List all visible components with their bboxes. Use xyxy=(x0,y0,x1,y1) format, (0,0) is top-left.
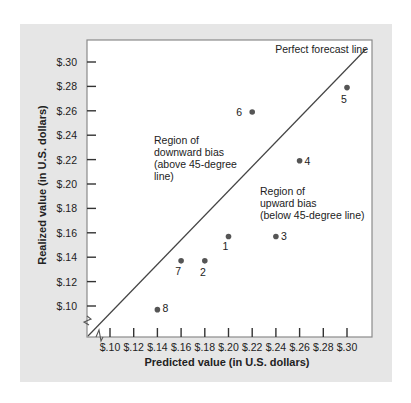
svg-text:upward bias: upward bias xyxy=(260,197,317,209)
x-tick-label: $.16 xyxy=(171,341,192,353)
y-tick-label: $.26 xyxy=(57,105,78,117)
y-tick-label: $.30 xyxy=(57,56,78,68)
svg-text:Region of: Region of xyxy=(154,134,199,146)
y-tick-label: $.18 xyxy=(57,202,78,214)
scatter-chart: $.10$.12$.14$.16$.18$.20$.22$.24$.26$.28… xyxy=(0,0,411,403)
y-tick-label: $.24 xyxy=(57,129,78,141)
point-label: 3 xyxy=(281,230,287,242)
svg-text:(below 45-degree line): (below 45-degree line) xyxy=(260,209,364,221)
svg-text:(above 45-degree: (above 45-degree xyxy=(154,158,237,170)
y-tick-label: $.28 xyxy=(57,80,78,92)
x-tick-label: $.22 xyxy=(242,341,263,353)
y-tick-label: $.14 xyxy=(57,251,78,263)
y-axis-title: Realized value (in U.S. dollars) xyxy=(36,105,48,265)
y-tick-label: $.10 xyxy=(57,300,78,312)
x-tick-label: $.20 xyxy=(218,341,239,353)
x-tick-label: $.14 xyxy=(147,341,168,353)
x-tick-label: $.18 xyxy=(195,341,216,353)
point-label: 8 xyxy=(162,302,168,314)
svg-text:downward bias: downward bias xyxy=(154,146,224,158)
x-tick-label: $.12 xyxy=(123,341,144,353)
x-tick-label: $.10 xyxy=(100,341,121,353)
x-tick-label: $.24 xyxy=(266,341,287,353)
point-label: 6 xyxy=(236,106,242,118)
point-label: 4 xyxy=(305,155,311,167)
svg-text:Region of: Region of xyxy=(260,185,305,197)
point-label: 5 xyxy=(341,93,347,105)
y-tick-label: $.20 xyxy=(57,178,78,190)
x-tick-label: $.28 xyxy=(313,341,334,353)
x-tick-label: $.30 xyxy=(337,341,358,353)
y-tick-label: $.16 xyxy=(57,227,78,239)
point-label: 7 xyxy=(175,265,181,277)
y-tick-label: $.12 xyxy=(57,276,78,288)
x-axis-title: Predicted value (in U.S. dollars) xyxy=(144,356,309,368)
point-label: 2 xyxy=(200,266,206,278)
point-label: 1 xyxy=(223,240,229,252)
perfect-forecast-label: Perfect forecast line xyxy=(275,43,368,55)
y-tick-label: $.22 xyxy=(57,154,78,166)
x-tick-label: $.26 xyxy=(289,341,310,353)
svg-text:line): line) xyxy=(154,170,174,182)
